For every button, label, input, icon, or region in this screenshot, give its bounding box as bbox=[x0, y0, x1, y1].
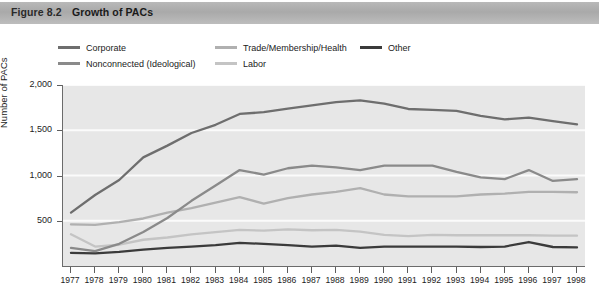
figure-title: Growth of PACs bbox=[72, 6, 153, 18]
x-axis-tick-mark bbox=[456, 267, 457, 273]
x-axis-tick-mark bbox=[215, 267, 216, 273]
legend-label: Nonconnected (Ideological) bbox=[86, 59, 196, 69]
legend-swatch bbox=[215, 62, 237, 65]
x-axis-tick-mark bbox=[528, 267, 529, 273]
x-axis-tick-mark bbox=[576, 267, 577, 273]
x-axis-tick-mark bbox=[552, 267, 553, 273]
y-axis-tick-label: 500 bbox=[0, 215, 61, 225]
x-axis-tick-mark bbox=[407, 267, 408, 273]
x-axis-tick-label: 1986 bbox=[277, 275, 296, 285]
x-axis-tick-label: 1992 bbox=[422, 275, 441, 285]
x-axis-tick-label: 1996 bbox=[518, 275, 537, 285]
legend-entry: Labor bbox=[215, 58, 266, 69]
x-axis-tick-mark bbox=[480, 267, 481, 273]
x-axis-tick-mark bbox=[70, 267, 71, 273]
legend-label: Corporate bbox=[86, 43, 126, 53]
x-axis-tick-label: 1979 bbox=[109, 275, 128, 285]
x-axis-tick-mark bbox=[118, 267, 119, 273]
x-axis-tick-mark bbox=[166, 267, 167, 273]
x-axis-tick-mark bbox=[359, 267, 360, 273]
x-axis-tick-label: 1991 bbox=[398, 275, 417, 285]
x-axis-tick-mark bbox=[287, 267, 288, 273]
data-series-line bbox=[71, 229, 577, 246]
y-axis-label: Number of PACs bbox=[0, 57, 9, 128]
legend-entry: Trade/Membership/Health bbox=[215, 42, 347, 53]
x-axis-tick-mark bbox=[431, 267, 432, 273]
x-axis-tick-label: 1995 bbox=[494, 275, 513, 285]
x-axis-tick-mark bbox=[383, 267, 384, 273]
data-series-line bbox=[71, 166, 577, 252]
x-axis-tick-mark bbox=[94, 267, 95, 273]
legend-label: Other bbox=[388, 43, 411, 53]
x-axis-tick-mark bbox=[504, 267, 505, 273]
x-axis-tick-label: 1998 bbox=[566, 275, 585, 285]
legend-swatch bbox=[58, 62, 80, 65]
x-axis-tick-label: 1997 bbox=[542, 275, 561, 285]
data-series-line bbox=[71, 100, 577, 212]
legend-swatch bbox=[58, 46, 80, 49]
x-axis-tick-label: 1980 bbox=[133, 275, 152, 285]
data-series-line bbox=[71, 188, 577, 225]
legend-entry: Corporate bbox=[58, 42, 126, 53]
figure-number: Figure 8.2 bbox=[11, 6, 62, 18]
figure-container: Figure 8.2 Growth of PACs CorporateNonco… bbox=[0, 0, 599, 293]
x-axis-tick-label: 1988 bbox=[325, 275, 344, 285]
x-axis-tick-mark bbox=[190, 267, 191, 273]
x-axis-tick-label: 1994 bbox=[470, 275, 489, 285]
legend-label: Labor bbox=[243, 59, 266, 69]
x-axis-tick-label: 1985 bbox=[253, 275, 272, 285]
chart-legend: CorporateNonconnected (Ideological)Trade… bbox=[0, 42, 599, 74]
x-axis-tick-label: 1987 bbox=[301, 275, 320, 285]
x-axis-tick-label: 1993 bbox=[446, 275, 465, 285]
y-axis-tick-label: 1,000 bbox=[0, 170, 61, 180]
x-axis-tick-mark bbox=[263, 267, 264, 273]
x-axis-tick-mark bbox=[335, 267, 336, 273]
x-axis-tick-label: 1978 bbox=[85, 275, 104, 285]
legend-entry: Nonconnected (Ideological) bbox=[58, 58, 196, 69]
x-axis-tick-label: 1977 bbox=[60, 275, 79, 285]
legend-entry: Other bbox=[360, 42, 411, 53]
figure-title-bar: Figure 8.2 Growth of PACs bbox=[0, 2, 599, 24]
x-axis-tick-mark bbox=[239, 267, 240, 273]
x-axis-tick-label: 1982 bbox=[181, 275, 200, 285]
legend-swatch bbox=[360, 46, 382, 49]
legend-label: Trade/Membership/Health bbox=[243, 43, 347, 53]
x-axis-tick-mark bbox=[311, 267, 312, 273]
plot-area bbox=[62, 85, 585, 267]
x-axis-tick-label: 1990 bbox=[374, 275, 393, 285]
x-axis-tick-label: 1983 bbox=[205, 275, 224, 285]
x-axis-tick-label: 1989 bbox=[350, 275, 369, 285]
x-axis-tick-label: 1981 bbox=[157, 275, 176, 285]
x-axis-tick-mark bbox=[142, 267, 143, 273]
x-axis-tick-label: 1984 bbox=[229, 275, 248, 285]
plot-svg bbox=[63, 85, 585, 266]
y-axis-tick-label: 1,500 bbox=[0, 124, 61, 134]
y-axis-tick-label: 2,000 bbox=[0, 79, 61, 89]
data-series-line bbox=[71, 242, 577, 253]
legend-swatch bbox=[215, 46, 237, 49]
